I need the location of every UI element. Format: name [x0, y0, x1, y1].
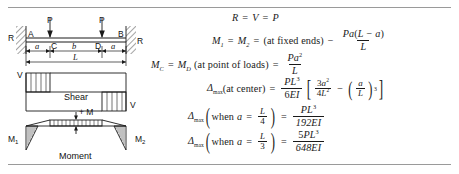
reaction-P-symbol: P — [272, 12, 278, 23]
load-moment-numerator: Pa2 — [285, 53, 306, 64]
deflection-third-inner-equals: = — [246, 136, 252, 147]
reaction-right-label: R — [137, 36, 143, 46]
point-a-label: A — [28, 29, 34, 39]
end-moment-fraction: Pa(L−a) L — [340, 29, 387, 52]
load-moment-MD: MD — [178, 59, 191, 70]
positive-moment-indicator — [74, 112, 78, 134]
third-paren-open: ( — [205, 135, 209, 149]
top-divider-rule — [8, 7, 451, 8]
quarter-result-numerator: PL3 — [298, 105, 319, 116]
fixed-support-left — [16, 26, 26, 54]
bracket-term1-denominator: 4L2 — [315, 88, 332, 99]
quarter-paren-open: ( — [205, 110, 209, 124]
deflection-center-bracket-power-term: ( a L ) 3 — [347, 79, 377, 99]
equation-load-moment: MC = MD (at point of loads) = Pa2 L — [151, 53, 307, 76]
quarter-inner-numerator: L — [258, 107, 267, 116]
deflection-third-when: when — [212, 136, 234, 147]
deflection-quarter-equals: = — [281, 111, 287, 122]
quarter-inner-denominator: 4 — [258, 116, 267, 127]
bracket-close: ] — [379, 82, 383, 96]
dimension-a-left-label: a — [35, 41, 39, 51]
deflection-third-delta: Δmax — [188, 135, 204, 148]
deflection-center-coefficient-fraction: PL3 6EI — [281, 77, 302, 100]
moment-caption: Moment — [59, 151, 92, 161]
load-moment-MC: MC — [151, 59, 164, 70]
deflection-center-equals: = — [269, 83, 275, 94]
deflection-quarter-when: when — [212, 111, 234, 122]
equation-deflection-third: Δmax ( when a = L 3 ) = 5PL3 648EI — [188, 130, 326, 153]
point-d-label: D — [95, 41, 101, 51]
third-inner-numerator: L — [258, 132, 267, 141]
deflection-third-equals: = — [281, 136, 287, 147]
figure-page: R R A B C D P P a b a L V V Shear M1 M2 … — [0, 0, 459, 174]
end-moment-M2: M2 — [238, 35, 250, 46]
bracket-term2-numerator: a — [356, 79, 365, 88]
deflection-quarter-result-fraction: PL3 192EI — [293, 105, 324, 128]
load-left-label: P — [47, 15, 53, 25]
moment-right-label: M2 — [135, 134, 146, 145]
paren-open: ( — [348, 83, 352, 95]
fixed-support-right — [126, 26, 136, 54]
point-b-label: B — [118, 29, 124, 39]
bracket-term2-denominator: L — [356, 88, 365, 99]
beam-diagram: R R A B C D P P a b a L V V Shear M1 M2 … — [6, 14, 154, 162]
equation-deflection-quarter: Δmax ( when a = L 4 ) = PL3 192EI — [188, 105, 326, 128]
equation-deflection-center: Δmax (at center) = PL3 6EI [ 3a2 4L2 − (… — [207, 77, 385, 100]
reaction-left-label: R — [8, 33, 14, 43]
dimension-b-label: b — [72, 41, 76, 51]
positive-moment-label: + M — [79, 107, 93, 117]
deflection-center-bracket-fraction-1: 3a2 4L2 — [315, 79, 332, 99]
load-moment-fraction: Pa2 L — [285, 53, 306, 76]
end-moment-equals-1: = — [228, 35, 234, 46]
bracket-minus: − — [337, 83, 343, 94]
end-moment-equals-2: = — [254, 35, 260, 46]
deflection-center-denominator: 6EI — [281, 88, 302, 101]
end-moment-denominator: L — [357, 40, 369, 53]
bracket-open: [ — [306, 82, 310, 96]
moment-left-label: M1 — [8, 134, 19, 145]
end-moment-note: (at fixed ends) — [263, 35, 323, 46]
third-result-numerator: 5PL3 — [295, 130, 322, 141]
bracket-term2-fraction: a L — [356, 79, 365, 99]
deflection-center-numerator: PL3 — [281, 77, 302, 88]
reaction-R-symbol: R — [232, 12, 238, 23]
deflection-quarter-inner-equals: = — [246, 111, 252, 122]
deflection-third-result-fraction: 5PL3 648EI — [293, 130, 324, 153]
equation-list: R = V = P M1 = M2 = (at fixed ends) − Pa… — [150, 10, 455, 160]
point-c-label: C — [51, 41, 57, 51]
quarter-result-denominator: 192EI — [293, 116, 324, 129]
paren-close: ) — [368, 83, 372, 95]
third-inner-denominator: 3 — [258, 141, 267, 152]
deflection-quarter-inner-fraction: L 4 — [258, 107, 267, 127]
end-moment-minus: − — [328, 35, 334, 46]
end-moment-M1: M1 — [212, 35, 224, 46]
end-moment-numerator: Pa(L−a) — [340, 29, 387, 40]
third-paren-close: ) — [271, 135, 275, 149]
deflection-center-delta: Δmax — [207, 82, 223, 95]
bottom-divider-rule — [8, 164, 451, 165]
deflection-quarter-delta: Δmax — [188, 110, 204, 123]
deflection-third-a: a — [237, 136, 242, 147]
equation-end-moment: M1 = M2 = (at fixed ends) − Pa(L−a) L — [212, 29, 389, 52]
load-right-label: P — [99, 15, 105, 25]
load-moment-equals-2: = — [273, 59, 279, 70]
deflection-third-inner-fraction: L 3 — [258, 132, 267, 152]
dimension-span-label: L — [72, 52, 78, 62]
quarter-paren-close: ) — [271, 110, 275, 124]
dimension-a-right-label: a — [111, 41, 115, 51]
load-moment-equals-1: = — [168, 59, 174, 70]
equation-reaction: R = V = P — [232, 12, 279, 23]
load-moment-note: (at point of loads) — [194, 59, 269, 70]
moment-diagram — [26, 112, 126, 150]
shear-caption: Shear — [64, 92, 88, 102]
reaction-V-symbol: V — [252, 12, 258, 23]
deflection-quarter-a: a — [237, 111, 242, 122]
deflection-center-note: (at center) — [223, 83, 266, 94]
reaction-equals-1: = — [242, 12, 248, 23]
third-result-denominator: 648EI — [293, 141, 324, 154]
shear-right-label: V — [130, 100, 136, 110]
reaction-equals-2: = — [263, 12, 269, 23]
shear-left-label: V — [17, 70, 23, 80]
